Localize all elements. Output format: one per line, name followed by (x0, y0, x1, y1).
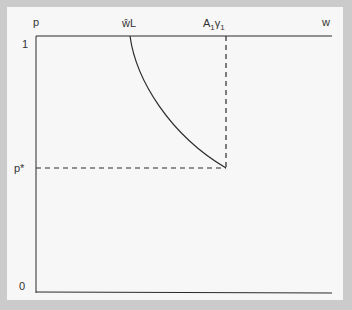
y-tick-pstar: p* (14, 162, 25, 174)
diagram-frame: p w 1 0 p* ŵL A1γ1 (0, 0, 352, 310)
y-axis-label: p (33, 16, 39, 28)
diagram-canvas: p w 1 0 p* ŵL A1γ1 (0, 0, 352, 310)
curve (130, 36, 226, 168)
y-tick-1: 1 (22, 38, 28, 50)
x-marker-wL: ŵL (121, 17, 136, 29)
bottom-axis-line (36, 292, 332, 293)
x-marker-A1-gamma1: A1γ1 (203, 17, 225, 32)
x-axis-label: w (321, 16, 330, 28)
y-tick-0: 0 (19, 280, 25, 292)
